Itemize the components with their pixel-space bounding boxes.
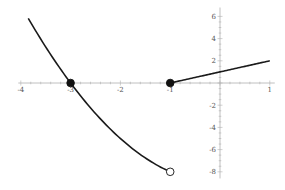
y-tick-label: -8	[209, 168, 216, 176]
y-tick-label: -6	[209, 146, 216, 154]
y-tick-label: 6	[212, 13, 217, 21]
curves	[28, 18, 270, 171]
y-tick-label: 2	[212, 57, 216, 65]
x-tick-label: -4	[17, 86, 24, 94]
curve-left-piece	[28, 18, 170, 171]
piecewise-function-plot: -4-3-2-11-8-6-4-2246	[0, 0, 285, 190]
x-tick-label: -2	[117, 86, 124, 94]
x-tick-label: 1	[268, 86, 272, 94]
y-tick-label: 4	[212, 35, 217, 43]
filled-point	[67, 79, 75, 87]
filled-point	[166, 79, 174, 87]
y-tick-label: -4	[209, 124, 216, 132]
y-tick-label: -2	[209, 102, 216, 110]
axes: -4-3-2-11-8-6-4-2246	[17, 8, 274, 179]
open-point	[166, 168, 174, 176]
